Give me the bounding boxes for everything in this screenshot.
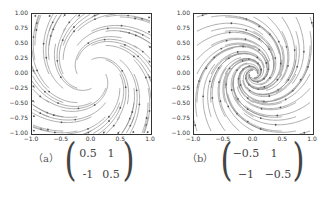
y-tick-label: −0.25 (166, 84, 190, 91)
y-tick-label: 0.00 (166, 69, 190, 76)
y-tick-label: 0.50 (166, 39, 190, 46)
y-tick-label: 0.00 (4, 69, 28, 76)
y-tick-label: 1.00 (166, 9, 190, 16)
right-paren-a: ) (123, 138, 135, 182)
y-tick-label: 0.75 (4, 24, 28, 31)
y-tick-label: −0.50 (4, 99, 28, 106)
y-tick-label: −0.75 (166, 114, 190, 121)
x-tick-label: −1.0 (183, 135, 203, 142)
matrix-b: ( −0.5 1 −1 −0.5 ) (220, 140, 304, 190)
matrix-b-12: 1 (256, 147, 292, 160)
matrix-b-21: −1 (228, 168, 264, 181)
y-tick-label: −0.75 (4, 114, 28, 121)
panel-a-label: （a） (33, 150, 59, 165)
y-tick-label: −0.25 (4, 84, 28, 91)
streamplot-b (193, 13, 314, 135)
matrix-b-22: −0.5 (260, 168, 296, 181)
y-tick-label: 0.50 (4, 39, 28, 46)
streamplot-a (31, 13, 152, 135)
x-tick-label: 1.0 (302, 135, 322, 142)
streamlines-b (194, 14, 313, 134)
x-tick-label: −1.0 (21, 135, 41, 142)
streamlines-a (32, 14, 151, 134)
y-tick-label: −0.50 (166, 99, 190, 106)
right-paren-b: ) (293, 138, 305, 182)
y-tick-label: 1.00 (4, 9, 28, 16)
x-tick-label: 1.0 (140, 135, 160, 142)
y-tick-label: 0.25 (166, 54, 190, 61)
y-tick-label: 0.75 (166, 24, 190, 31)
matrix-a: ( 0.5 1 -1 0.5 ) (64, 140, 134, 190)
y-tick-label: 0.25 (4, 54, 28, 61)
panel-b-label: （b） (187, 150, 213, 165)
